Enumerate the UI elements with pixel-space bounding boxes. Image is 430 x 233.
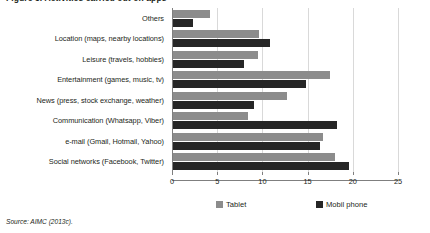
x-axis-tick-label: 20 [349, 177, 357, 186]
category-label: Entertainment (games, music, tv) [0, 70, 168, 91]
legend-swatch-tablet [216, 201, 223, 208]
x-axis-line [172, 180, 398, 181]
category-label: News (press, stock exchange, weather) [0, 90, 168, 111]
x-axis-tick [172, 172, 173, 175]
bar-group [173, 8, 398, 29]
chart-legend: TabletMobil phone [0, 200, 430, 214]
category-label: e-mail (Gmail, Hotmail, Yahoo) [0, 131, 168, 152]
bar-tablet [173, 133, 323, 141]
bar-tablet [173, 51, 258, 59]
x-axis-tick [398, 172, 399, 175]
bar-group [173, 29, 398, 50]
grid-line [398, 8, 399, 172]
bar-group [173, 152, 398, 173]
bar-mobil-phone [173, 162, 349, 170]
bar-mobil-phone [173, 142, 320, 150]
x-axis-tick [353, 172, 354, 175]
category-axis-labels: OthersLocation (maps, nearby locations)L… [0, 8, 168, 172]
x-axis-tick [217, 172, 218, 175]
category-label: Location (maps, nearby locations) [0, 29, 168, 50]
x-axis-tick [308, 172, 309, 175]
x-axis-tick-label: 25 [394, 177, 402, 186]
bar-tablet [173, 153, 335, 161]
bar-mobil-phone [173, 39, 270, 47]
source-note: Source: AIMC (2013c). [6, 218, 73, 225]
bar-tablet [173, 92, 287, 100]
bar-chart: OthersLocation (maps, nearby locations)L… [0, 8, 430, 180]
bar-group [173, 111, 398, 132]
bar-mobil-phone [173, 80, 306, 88]
category-label: Leisure (travels, hobbies) [0, 49, 168, 70]
bar-mobil-phone [173, 19, 193, 27]
bar-tablet [173, 112, 248, 120]
x-axis-tick-label: 15 [303, 177, 311, 186]
legend-item: Mobil phone [316, 200, 367, 209]
category-label: Others [0, 8, 168, 29]
bar-tablet [173, 71, 330, 79]
bar-tablet [173, 10, 210, 18]
category-label: Communication (Whatsapp, Viber) [0, 111, 168, 132]
bar-tablet [173, 30, 259, 38]
x-axis-tick-label: 0 [170, 177, 174, 186]
bar-mobil-phone [173, 121, 337, 129]
legend-label: Mobil phone [326, 200, 367, 209]
bar-group [173, 49, 398, 70]
bar-group [173, 70, 398, 91]
plot-area [172, 8, 398, 172]
legend-item: Tablet [216, 200, 246, 209]
bar-group [173, 90, 398, 111]
legend-swatch-mobil-phone [316, 201, 323, 208]
category-label: Social networks (Facebook, Twitter) [0, 152, 168, 173]
bar-mobil-phone [173, 60, 244, 68]
figure-title: Figure 3. Activities carried out on apps [6, 0, 167, 3]
x-axis-tick-label: 10 [258, 177, 266, 186]
bar-mobil-phone [173, 101, 254, 109]
x-axis-tick [262, 172, 263, 175]
bar-group [173, 131, 398, 152]
legend-label: Tablet [226, 200, 246, 209]
x-axis-tick-label: 5 [215, 177, 219, 186]
